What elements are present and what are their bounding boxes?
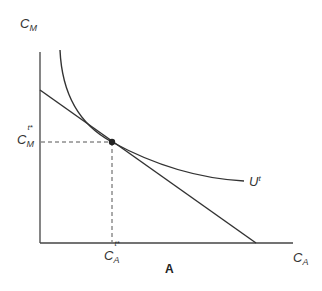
y-axis-label-sub: M (29, 23, 37, 33)
y-marker-main: C (17, 132, 26, 147)
x-marker-label: Ct*A (104, 249, 119, 265)
x-axis-label-sub: A (302, 257, 308, 267)
curve-label: Ut (249, 175, 261, 188)
x-marker-main: C (104, 248, 113, 263)
x-axis-label: CA (293, 251, 308, 267)
y-marker-sub: M (26, 139, 34, 149)
curve-label-sup: t (258, 174, 260, 183)
budget-line (40, 90, 256, 243)
indifference-curve (60, 50, 244, 181)
x-marker-sup: t* (114, 240, 119, 248)
diagram-canvas (0, 0, 322, 291)
y-axis-label-main: C (20, 16, 29, 31)
y-axis-label: CM (20, 17, 37, 33)
tangency-point (109, 139, 115, 145)
y-marker-label: Ct*M (17, 133, 34, 149)
y-marker-sup: t* (27, 124, 32, 132)
curve-label-main: U (249, 174, 258, 189)
panel-label: A (165, 262, 174, 276)
x-marker-sub: A (113, 255, 119, 265)
x-axis-label-main: C (293, 250, 302, 265)
